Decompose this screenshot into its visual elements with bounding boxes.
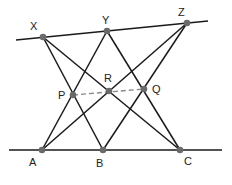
diagram-canvas: XYZPRQABC [0,0,232,185]
point-r [106,88,113,95]
point-z [184,20,191,27]
label-z: Z [178,6,185,18]
point-c [177,147,184,154]
label-q: Q [152,83,161,95]
point-x [40,34,47,41]
point-q [141,86,148,93]
label-p: P [58,89,65,101]
label-r: R [104,72,112,84]
pappus-diagram: XYZPRQABC [0,0,232,185]
point-b [100,147,107,154]
point-p [70,92,77,99]
label-x: X [30,20,38,32]
segment-YA [42,31,107,150]
point-y [104,28,111,35]
label-a: A [29,156,37,168]
label-y: Y [102,14,110,26]
point-a [39,147,46,154]
label-b: B [96,157,103,169]
label-c: C [184,155,192,167]
